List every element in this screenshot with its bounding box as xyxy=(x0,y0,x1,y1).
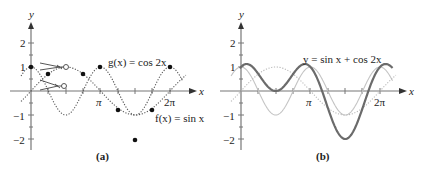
y-tick-label-neg2: −2 xyxy=(223,134,235,146)
x-tick-label-2pi: 2π xyxy=(164,96,176,108)
label-f-sinx: f(x) = sin x xyxy=(155,112,205,125)
x-axis-label: x xyxy=(198,85,204,97)
y-tick-label-2: 2 xyxy=(20,37,26,49)
panel-a: y x 2 1 −1 −2 π 2π xyxy=(10,8,205,163)
y-axis-arrow-icon xyxy=(238,22,244,29)
panel-b: y x 2 1 −1 −2 π 2π y = sin x + cos 2x (b… xyxy=(220,8,414,163)
x-tick-label-pi: π xyxy=(96,96,102,108)
y-tick-label-neg1: −1 xyxy=(13,110,25,122)
x-tick-label-2pi: 2π xyxy=(374,96,386,108)
y-axis-arrow-icon xyxy=(28,22,34,29)
label-g-cos2x: g(x) = cos 2x xyxy=(108,56,167,69)
y-tick-label-neg1: −1 xyxy=(223,110,235,122)
x-axis-arrow-icon xyxy=(189,88,197,94)
y-axis-label: y xyxy=(28,8,34,20)
figure: y x 2 1 −1 −2 π 2π xyxy=(0,0,422,175)
y-axis-label: y xyxy=(238,8,244,20)
label-sum: y = sin x + cos 2x xyxy=(303,53,382,65)
x-axis-arrow-icon xyxy=(399,88,407,94)
caption-a: (a) xyxy=(96,150,109,163)
y-tick-label-2: 2 xyxy=(230,37,236,49)
y-tick-label-neg2: −2 xyxy=(13,134,25,146)
x-tick-label-pi: π xyxy=(306,96,312,108)
x-axis-label: x xyxy=(408,85,414,97)
caption-b: (b) xyxy=(316,150,330,163)
pencil-pointer-icon xyxy=(40,63,69,90)
